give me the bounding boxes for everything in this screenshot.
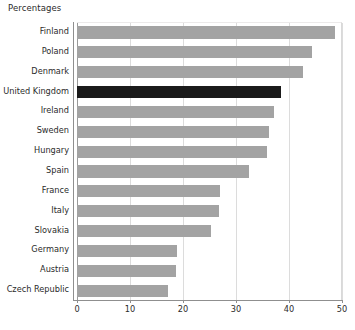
- x-tick-label-20: 20: [178, 304, 188, 314]
- bar-czech-republic: [77, 285, 168, 297]
- y-axis-line: [73, 22, 74, 301]
- plot-area: [77, 22, 342, 300]
- y-label-denmark: Denmark: [31, 62, 69, 82]
- y-label-poland: Poland: [42, 42, 69, 62]
- x-tick-mark-10: [130, 300, 131, 303]
- bar-hungary: [77, 146, 267, 158]
- bar-row: [77, 142, 341, 162]
- bar-row: [77, 23, 341, 43]
- bar-row: [77, 261, 341, 281]
- bar-row: [77, 162, 341, 182]
- x-tick-mark-40: [289, 300, 290, 303]
- bar-row: [77, 202, 341, 222]
- bar-row: [77, 83, 341, 103]
- x-tick-label-0: 0: [74, 304, 79, 314]
- bar-row: [77, 241, 341, 261]
- bar-ireland: [77, 106, 274, 118]
- bar-slovakia: [77, 225, 211, 237]
- x-tick-label-40: 40: [284, 304, 294, 314]
- y-label-czech-republic: Czech Republic: [7, 280, 69, 300]
- y-label-sweden: Sweden: [37, 121, 69, 141]
- bar-france: [77, 185, 220, 197]
- y-label-germany: Germany: [31, 240, 69, 260]
- bar-row: [77, 63, 341, 83]
- chart-title: Percentages: [8, 3, 61, 13]
- y-label-slovakia: Slovakia: [35, 221, 69, 241]
- gridline-50: [342, 23, 343, 300]
- x-axis-ticks: 01020304050: [0, 300, 355, 326]
- bar-denmark: [77, 66, 303, 78]
- y-label-italy: Italy: [51, 201, 69, 221]
- x-tick-mark-50: [342, 300, 343, 303]
- x-tick-label-30: 30: [231, 304, 241, 314]
- y-axis-category-labels: FinlandPolandDenmarkUnited KingdomIrelan…: [0, 22, 74, 300]
- bar-row: [77, 43, 341, 63]
- bar-row: [77, 102, 341, 122]
- x-tick-mark-30: [236, 300, 237, 303]
- bar-italy: [77, 205, 219, 217]
- bar-spain: [77, 165, 249, 177]
- bar-row: [77, 122, 341, 142]
- bar-austria: [77, 265, 176, 277]
- bar-finland: [77, 26, 335, 38]
- x-tick-mark-20: [183, 300, 184, 303]
- bar-chart: Percentages FinlandPolandDenmarkUnited K…: [0, 0, 355, 330]
- y-label-hungary: Hungary: [34, 141, 69, 161]
- y-label-austria: Austria: [40, 260, 69, 280]
- bar-poland: [77, 46, 312, 58]
- x-tick-label-10: 10: [125, 304, 135, 314]
- bar-row: [77, 222, 341, 242]
- y-label-france: France: [42, 181, 69, 201]
- x-tick-mark-0: [77, 300, 78, 303]
- bar-united-kingdom: [77, 86, 281, 98]
- bar-germany: [77, 245, 177, 257]
- y-label-united-kingdom: United Kingdom: [3, 82, 69, 102]
- bar-row: [77, 182, 341, 202]
- y-label-finland: Finland: [40, 22, 69, 42]
- bar-rows: [77, 23, 341, 300]
- bar-sweden: [77, 126, 269, 138]
- y-label-spain: Spain: [46, 161, 69, 181]
- bar-row: [77, 281, 341, 301]
- x-tick-label-50: 50: [337, 304, 347, 314]
- y-label-ireland: Ireland: [41, 101, 69, 121]
